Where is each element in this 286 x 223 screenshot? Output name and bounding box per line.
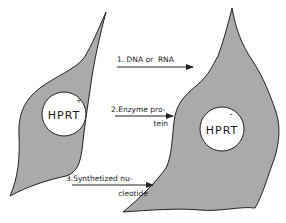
diagram-canvas: HPRT + HPRT - 1. DNA or RNA 2.Enzyme pro… [0,0,286,223]
arrow-3-label-line1: 3.Synthetized nu- [66,174,133,183]
transfer-arrow-synthesized-nucleotide: 3.Synthetized nu- cleotide [66,174,153,198]
recipient-nucleus-sign: - [230,110,233,119]
donor-nucleus-sign: + [76,97,82,105]
arrow-1-label: 1. DNA or RNA [117,55,175,64]
arrow-2-label-line1: 2.Enzyme pro- [111,105,166,114]
recipient-nucleus-label: HPRT [206,124,238,137]
transfer-arrow-dna-rna: 1. DNA or RNA [117,55,193,67]
hprt-transfer-diagram: HPRT + HPRT - 1. DNA or RNA 2.Enzyme pro… [0,0,286,223]
donor-nucleus-label: HPRT [48,109,80,122]
donor-cell: HPRT + [10,12,106,196]
arrow-2-label-line2: tein [154,119,169,128]
arrow-3-label-line2: cleotide [118,189,148,198]
transfer-arrow-enzyme-protein: 2.Enzyme pro- tein [111,105,173,128]
